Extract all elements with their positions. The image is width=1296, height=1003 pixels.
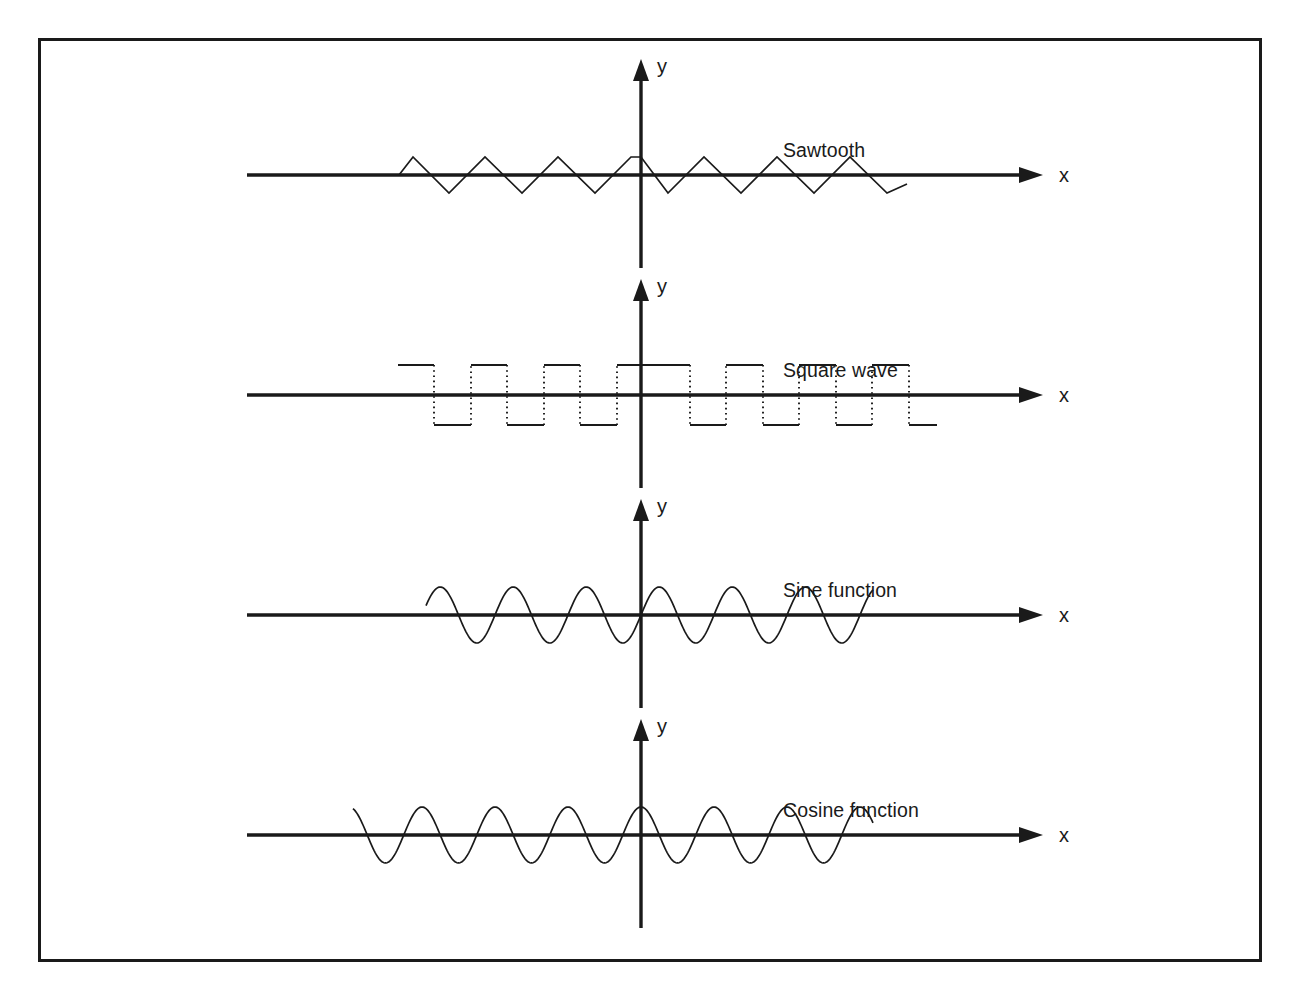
panel-square: x y <box>41 261 1259 486</box>
panel-caption-sine: Sine function <box>783 579 897 602</box>
square-wave-plot: x y <box>41 261 1259 486</box>
x-axis-arrow-icon <box>1019 387 1043 403</box>
x-axis-label: x <box>1059 384 1069 406</box>
figure-border: x y Sawtooth x y <box>38 38 1262 962</box>
sawtooth-plot: x y <box>41 41 1259 266</box>
panel-sine: x y Sine function <box>41 481 1259 706</box>
y-axis-label: y <box>657 495 667 517</box>
panel-caption-square: Square wave <box>783 359 898 382</box>
y-axis-arrow-icon <box>633 279 649 301</box>
x-axis-label: x <box>1059 604 1069 626</box>
y-axis-label: y <box>657 275 667 297</box>
panel-sawtooth: x y Sawtooth <box>41 41 1259 266</box>
panel-caption-cosine: Cosine function <box>783 799 919 822</box>
panel-caption-sawtooth: Sawtooth <box>783 139 865 162</box>
cosine-plot: x y <box>41 701 1259 926</box>
x-axis-label: x <box>1059 824 1069 846</box>
y-axis-label: y <box>657 55 667 77</box>
x-axis-label: x <box>1059 164 1069 186</box>
x-axis-arrow-icon <box>1019 607 1043 623</box>
x-axis-arrow-icon <box>1019 167 1043 183</box>
panel-cosine: x y Cosine function <box>41 701 1259 926</box>
x-axis-arrow-icon <box>1019 827 1043 843</box>
sine-plot: x y <box>41 481 1259 706</box>
y-axis-arrow-icon <box>633 719 649 741</box>
y-axis-arrow-icon <box>633 59 649 81</box>
y-axis-arrow-icon <box>633 499 649 521</box>
y-axis-label: y <box>657 715 667 737</box>
